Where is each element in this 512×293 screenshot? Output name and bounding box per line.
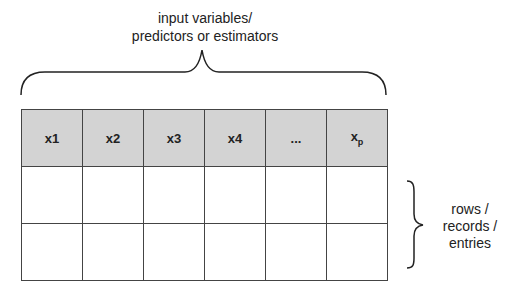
header-cell-xp: xp <box>327 110 388 167</box>
top-curly-brace-icon <box>21 50 386 95</box>
table-cell <box>266 167 327 224</box>
table-cell <box>144 224 205 281</box>
table-cell <box>144 167 205 224</box>
table-cell <box>327 167 388 224</box>
header-cell-ellipsis: ... <box>266 110 327 167</box>
xp-subscript: p <box>358 137 364 147</box>
table-row <box>22 224 388 281</box>
rows-label-line1: rows / <box>432 201 508 218</box>
table-cell <box>22 224 83 281</box>
rows-label-line3: entries <box>432 235 508 252</box>
rows-label-line2: records / <box>432 218 508 235</box>
header-cell-x4: x4 <box>205 110 266 167</box>
table-row <box>22 167 388 224</box>
table-cell <box>327 224 388 281</box>
header-row: x1 x2 x3 x4 ... xp <box>22 110 388 167</box>
table-cell <box>83 167 144 224</box>
table-cell <box>205 224 266 281</box>
table-cell <box>22 167 83 224</box>
header-cell-x1: x1 <box>22 110 83 167</box>
xp-base: x <box>351 129 358 144</box>
data-table: x1 x2 x3 x4 ... xp <box>21 109 388 281</box>
side-curly-brace-icon <box>407 181 423 268</box>
table-cell <box>205 167 266 224</box>
table-cell <box>266 224 327 281</box>
header-cell-x2: x2 <box>83 110 144 167</box>
rows-label: rows / records / entries <box>432 201 508 252</box>
table-cell <box>83 224 144 281</box>
header-cell-x3: x3 <box>144 110 205 167</box>
